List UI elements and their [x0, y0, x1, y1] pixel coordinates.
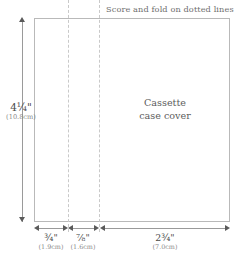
horizontal-dimension-3-inches: 2¾" — [133, 232, 197, 243]
center-label-line-2: case cover — [118, 109, 212, 122]
horizontal-dimension-line-2 — [70, 228, 97, 229]
horizontal-arrow-2-right-icon — [94, 225, 99, 231]
center-label-line-1: Cassette — [118, 96, 212, 109]
horizontal-dimension-line-3 — [103, 228, 228, 229]
vertical-dimension-arrow-top-icon — [19, 17, 25, 22]
cassette-case-cover-diagram: Score and fold on dotted lines Cassette … — [0, 0, 238, 258]
horizontal-dimension-label-3: 2¾" (7.0cm) — [133, 232, 197, 252]
horizontal-arrow-3-right-icon — [225, 225, 230, 231]
horizontal-dimension-label-2: ⅞" (1.6cm) — [64, 232, 102, 252]
horizontal-dimension-2-inches: ⅞" — [64, 232, 102, 243]
header-caption: Score and fold on dotted lines — [106, 4, 234, 14]
horizontal-arrow-2-left-icon — [68, 225, 73, 231]
fold-line-1 — [68, 0, 69, 232]
horizontal-arrow-3-left-icon — [100, 225, 105, 231]
horizontal-dimension-2-centimeters: (1.6cm) — [64, 243, 102, 252]
vertical-dimension-centimeters: (10.8cm) — [0, 113, 42, 122]
fold-line-2 — [99, 0, 100, 232]
center-label: Cassette case cover — [118, 96, 212, 122]
vertical-dimension-inches: 4¼" — [0, 101, 42, 113]
horizontal-dimension-3-centimeters: (7.0cm) — [133, 243, 197, 252]
horizontal-dimension-line-1 — [36, 228, 66, 229]
vertical-dimension-label: 4¼" (10.8cm) — [0, 101, 42, 122]
horizontal-arrow-1-left-icon — [34, 225, 39, 231]
vertical-dimension-arrow-bottom-icon — [19, 217, 25, 222]
